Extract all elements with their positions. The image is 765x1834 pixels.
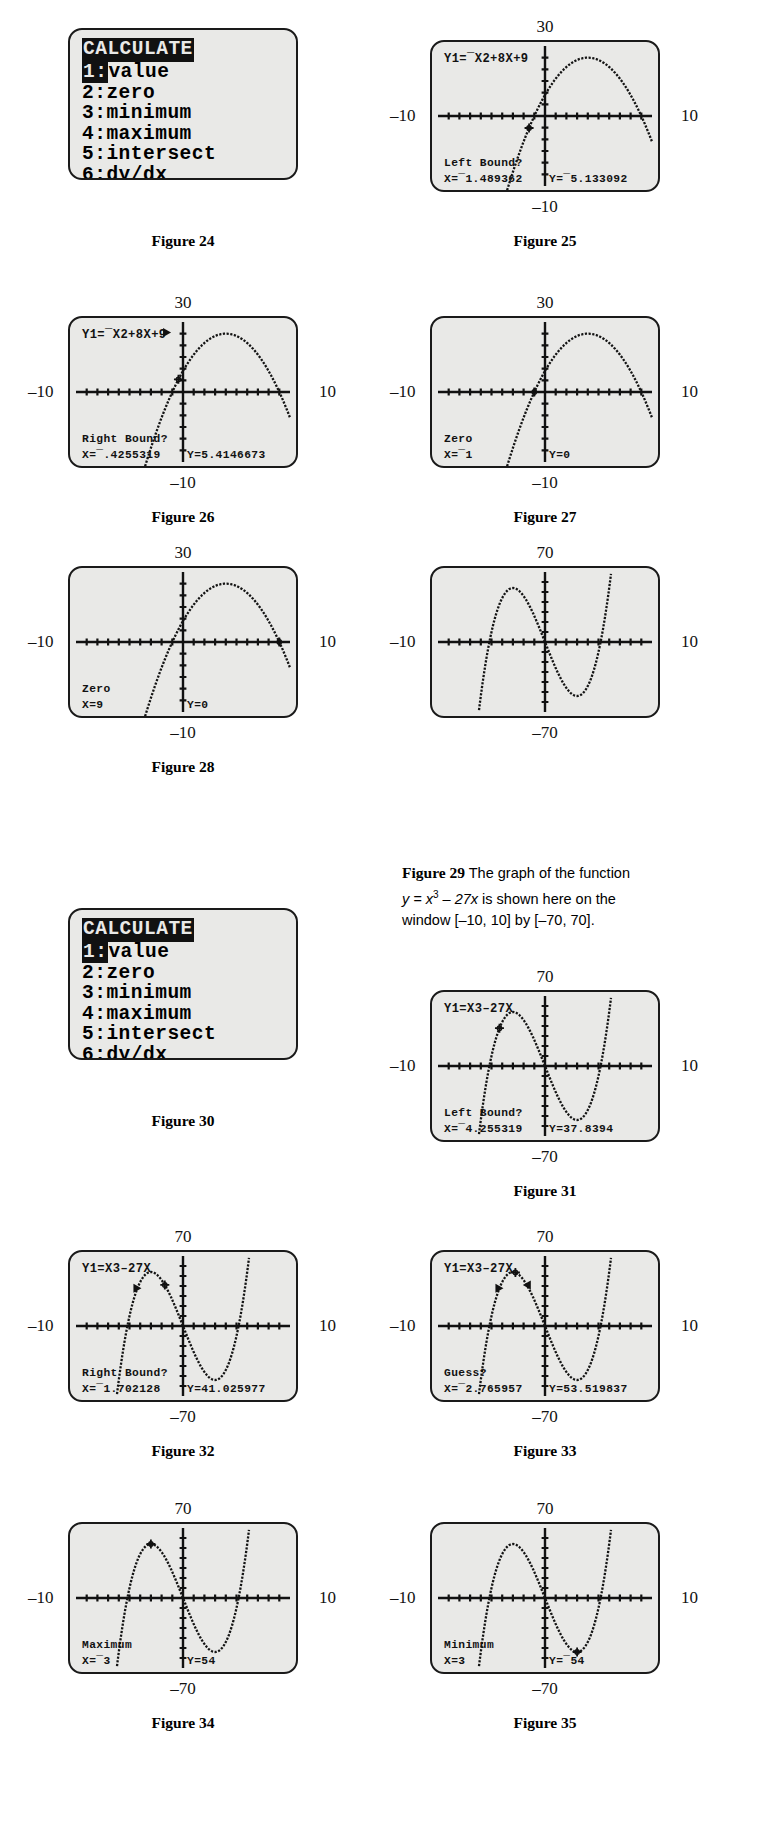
calculator-graph: ZeroX=9Y=0 xyxy=(70,568,296,716)
function-curve xyxy=(143,334,290,466)
axis-label-right: 10 xyxy=(681,1316,698,1336)
menu-title-text: CALCULATE xyxy=(82,918,194,940)
calculator-graph: Y1=X3–27XLeft Bound?X=¯4.255319Y=37.8394 xyxy=(432,992,658,1140)
figure-fig28: ZeroX=9Y=030–10–1010 xyxy=(68,566,298,718)
menu-item-value[interactable]: 1:value xyxy=(82,62,296,83)
axis-label-bottom: –70 xyxy=(532,1679,558,1699)
y-value-label: Y=54 xyxy=(187,1655,216,1667)
y-value-label: Y=41.025977 xyxy=(187,1383,266,1395)
calculator-screen: Y1=X3–27XRight Bound?X=¯1.702128Y=41.025… xyxy=(68,1250,298,1402)
figure-fig33: Y1=X3–27XGuess?X=¯2.765957Y=53.51983770–… xyxy=(430,1250,660,1402)
equation-label: Y1=X3–27X xyxy=(444,1262,513,1276)
calculator-screen: ZeroX=9Y=0 xyxy=(68,566,298,718)
menu-item-label: value xyxy=(108,61,169,83)
figure-fig30: CALCULATE1:value2:zero3:minimum4:maximum… xyxy=(68,908,298,1060)
y-value-label: Y=53.519837 xyxy=(549,1383,628,1395)
axis-label-right: 10 xyxy=(319,632,336,652)
menu-item-dydx[interactable]: 6:dy/dx xyxy=(82,165,296,181)
axis-label-bottom: –10 xyxy=(532,197,558,217)
axis-label-top: 70 xyxy=(537,1227,554,1247)
y-value-label: Y=¯5.133092 xyxy=(549,173,628,185)
axis-label-left: –10 xyxy=(28,382,54,402)
trace-cursor xyxy=(495,1024,504,1033)
prompt-label: Zero xyxy=(444,433,473,445)
menu-item-zero[interactable]: 2:zero xyxy=(82,963,296,984)
figure-caption: Figure 32 xyxy=(68,1442,298,1460)
y-value-label: Y=0 xyxy=(187,699,208,711)
calculator-screen: Y1=¯X2+8X+9Right Bound?X=¯.4255319Y=5.41… xyxy=(68,316,298,468)
trace-cursor xyxy=(174,375,183,384)
figure-fig26: Y1=¯X2+8X+9Right Bound?X=¯.4255319Y=5.41… xyxy=(68,316,298,468)
x-value-label: X=¯1 xyxy=(444,449,473,461)
axis-label-bottom: –70 xyxy=(532,1407,558,1427)
menu-item-label: 2:zero xyxy=(82,962,155,984)
x-value-label: X=9 xyxy=(82,699,103,711)
calculator-graph: ZeroX=¯1Y=0 xyxy=(432,318,658,466)
axis-label-left: –10 xyxy=(390,1056,416,1076)
menu-item-dydx[interactable]: 6:dy/dx xyxy=(82,1045,296,1061)
menu-item-minimum[interactable]: 3:minimum xyxy=(82,983,296,1004)
calculator-graph: Y1=X3–27XRight Bound?X=¯1.702128Y=41.025… xyxy=(70,1252,296,1400)
trace-cursor xyxy=(146,1540,155,1549)
axis-label-top: 70 xyxy=(537,543,554,563)
prompt-label: Left Bound? xyxy=(444,1107,523,1119)
menu-item-intersect[interactable]: 5:intersect xyxy=(82,1024,296,1045)
axis-label-left: –10 xyxy=(28,1316,54,1336)
figure-caption: Figure 29 The graph of the functiony = x… xyxy=(402,862,762,931)
menu-item-label: 5:intersect xyxy=(82,143,216,165)
calculator-graph: Y1=X3–27XGuess?X=¯2.765957Y=53.519837 xyxy=(432,1252,658,1400)
equation-label: Y1=X3–27X xyxy=(444,1002,513,1016)
axis-label-top: 70 xyxy=(537,967,554,987)
prompt-label: Minimum xyxy=(444,1639,494,1651)
axis-label-right: 10 xyxy=(681,106,698,126)
calculator-screen: MaximumX=¯3Y=54 xyxy=(68,1522,298,1674)
figure-caption: Figure 34 xyxy=(68,1714,298,1732)
axis-label-top: 30 xyxy=(175,293,192,313)
x-value-label: X=¯3 xyxy=(82,1655,111,1667)
calculator-graph: MaximumX=¯3Y=54 xyxy=(70,1524,296,1672)
menu-title: CALCULATE xyxy=(82,919,194,942)
prompt-label: Guess? xyxy=(444,1367,487,1379)
calculate-menu: CALCULATE1:value2:zero3:minimum4:maximum… xyxy=(70,30,296,180)
axis-label-top: 70 xyxy=(175,1499,192,1519)
prompt-label: Right Bound? xyxy=(82,1367,168,1379)
axis-label-left: –10 xyxy=(390,382,416,402)
menu-item-label: 5:intersect xyxy=(82,1023,216,1045)
y-value-label: Y=¯54 xyxy=(549,1655,585,1667)
axis-label-bottom: –10 xyxy=(170,723,196,743)
menu-item-number: 1: xyxy=(82,61,108,83)
menu-item-minimum[interactable]: 3:minimum xyxy=(82,103,296,124)
menu-item-zero[interactable]: 2:zero xyxy=(82,83,296,104)
calculator-screen: Y1=X3–27XGuess?X=¯2.765957Y=53.519837 xyxy=(430,1250,660,1402)
figure-fig25: Y1=¯X2+8X+9Left Bound?X=¯1.489362Y=¯5.13… xyxy=(430,40,660,192)
trace-cursor xyxy=(530,388,539,397)
figure-caption: Figure 35 xyxy=(430,1714,660,1732)
axis-label-right: 10 xyxy=(681,1056,698,1076)
y-value-label: Y=37.8394 xyxy=(549,1123,613,1135)
equation-label: Y1=¯X2+8X+9 xyxy=(444,52,529,66)
menu-title: CALCULATE xyxy=(82,39,194,62)
menu-item-intersect[interactable]: 5:intersect xyxy=(82,144,296,165)
calculator-graph: Y1=¯X2+8X+9Left Bound?X=¯1.489362Y=¯5.13… xyxy=(432,42,658,190)
equation-label: Y1=X3–27X xyxy=(82,1262,151,1276)
calculator-screen: Y1=X3–27XLeft Bound?X=¯4.255319Y=37.8394 xyxy=(430,990,660,1142)
axis-label-right: 10 xyxy=(681,1588,698,1608)
figure-fig27: ZeroX=¯1Y=030–10–1010 xyxy=(430,316,660,468)
figure-caption: Figure 30 xyxy=(68,1112,298,1130)
figure-caption: Figure 31 xyxy=(430,1182,660,1200)
axis-label-bottom: –70 xyxy=(170,1679,196,1699)
trace-cursor xyxy=(275,638,284,647)
x-value-label: X=3 xyxy=(444,1655,465,1667)
figure-caption: Figure 28 xyxy=(68,758,298,776)
menu-item-maximum[interactable]: 4:maximum xyxy=(82,1004,296,1025)
calculator-screen: MinimumX=3Y=¯54 xyxy=(430,1522,660,1674)
axis-label-left: –10 xyxy=(390,1588,416,1608)
axis-label-right: 10 xyxy=(319,1588,336,1608)
equation-label: Y1=¯X2+8X+9 xyxy=(82,328,167,342)
axis-label-left: –10 xyxy=(390,106,416,126)
menu-item-value[interactable]: 1:value xyxy=(82,942,296,963)
menu-item-maximum[interactable]: 4:maximum xyxy=(82,124,296,145)
axis-label-right: 10 xyxy=(681,632,698,652)
figure-sheet: CALCULATE1:value2:zero3:minimum4:maximum… xyxy=(0,0,765,1834)
y-value-label: Y=0 xyxy=(549,449,570,461)
